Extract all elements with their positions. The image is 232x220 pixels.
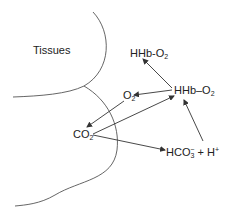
co2-label: CO2 [73,128,93,144]
oxygen-co2-exchange-diagram: Tissues HHb-O2 HHb–O2 O2 CO2 HCO3− + H+ [0,0,232,220]
arrow-hhbo2-to-hhbo2-top [143,59,172,88]
diagram-lines [0,0,232,220]
hhb-o2-right-label: HHb–O2 [174,84,215,100]
tissue-boundary-lower [15,86,117,206]
o2-label: O2 [123,89,135,105]
hco3-h-label: HCO3− + H+ [166,144,219,162]
hhb-o2-top-label: HHb-O2 [130,47,168,63]
tissues-label: Tissues [33,44,71,56]
arrow-co2-to-hco3 [93,135,165,150]
arrow-hhbo2-to-o2 [134,90,172,95]
arrow-hco3-to-hhbo2 [184,100,203,141]
